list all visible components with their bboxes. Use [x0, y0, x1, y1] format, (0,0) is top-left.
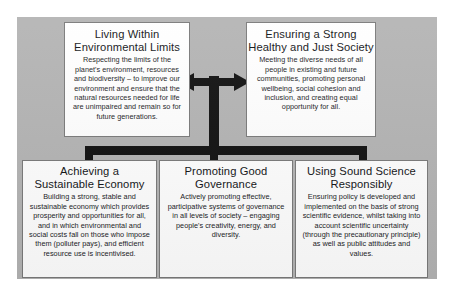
- card-body-environmental-limits: Respecting the limits of the planet's en…: [65, 55, 189, 121]
- card-title-line-2: Governance: [160, 178, 292, 191]
- principle-card-good-governance: Promoting Good Governance Actively promo…: [159, 160, 293, 278]
- card-body-sustainable-economy: Building a strong, stable and sustainabl…: [23, 192, 156, 258]
- card-title-sustainable-economy: Achieving a Sustainable Economy: [23, 165, 156, 191]
- card-body-good-governance: Actively promoting effective, participat…: [160, 192, 292, 239]
- double-arrow-shaft: [190, 78, 238, 86]
- principle-card-environmental-limits: Living Within Environmental Limits Respe…: [64, 22, 190, 137]
- card-title-environmental-limits: Living Within Environmental Limits: [65, 28, 189, 54]
- card-title-line-1: Living Within: [65, 28, 189, 41]
- card-title-line-1: Using Sound Science: [296, 165, 427, 178]
- card-title-line-1: Achieving a: [23, 165, 156, 178]
- vertical-trunk-line: [209, 76, 219, 155]
- principle-card-just-society: Ensuring a Strong Healthy and Just Socie…: [246, 22, 376, 137]
- card-title-line-2: Responsibly: [296, 178, 427, 191]
- card-title-line-1: Promoting Good: [160, 165, 292, 178]
- card-title-line-2: Healthy and Just Society: [247, 41, 375, 54]
- card-title-line-2: Sustainable Economy: [23, 178, 156, 191]
- principle-card-sustainable-economy: Achieving a Sustainable Economy Building…: [22, 160, 157, 278]
- horizontal-distribution-bar: [85, 146, 367, 155]
- card-body-just-society: Meeting the diverse needs of all people …: [247, 55, 375, 111]
- card-title-line-1: Ensuring a Strong: [247, 28, 375, 41]
- card-title-line-2: Environmental Limits: [65, 41, 189, 54]
- card-title-just-society: Ensuring a Strong Healthy and Just Socie…: [247, 28, 375, 54]
- card-title-good-governance: Promoting Good Governance: [160, 165, 292, 191]
- principle-card-sound-science: Using Sound Science Responsibly Ensuring…: [295, 160, 428, 278]
- card-title-sound-science: Using Sound Science Responsibly: [296, 165, 427, 191]
- sustainable-development-diagram: Living Within Environmental Limits Respe…: [0, 0, 452, 295]
- card-body-sound-science: Ensuring policy is developed and impleme…: [296, 192, 427, 258]
